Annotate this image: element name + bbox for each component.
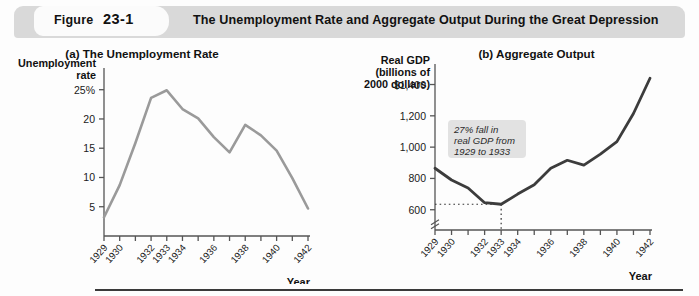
y-tick-label: 1,200 <box>400 110 426 122</box>
figure-label: Figure <box>54 13 93 27</box>
x-tick-label: 1940 <box>260 242 282 265</box>
annotation-line2: real GDP from <box>454 135 515 146</box>
x-axis-title: Year <box>629 270 653 282</box>
figure-root: Figure 23-1 The Unemployment Rate and Ag… <box>0 0 699 296</box>
y-axis-title-line1: Unemployment <box>18 57 96 69</box>
x-tick-label: 1938 <box>567 236 589 259</box>
x-tick-label: 1936 <box>534 236 556 259</box>
x-axis-title: Year <box>287 276 311 284</box>
unemployment-rate-chart: Unemploymentrate25%201510519291930193219… <box>0 44 350 284</box>
x-tick-label: 1934 <box>501 235 524 259</box>
y-axis-title-line1: Real GDP <box>381 54 430 66</box>
y-tick-label: 5 <box>89 201 95 213</box>
x-tick-label: 1942 <box>291 242 313 265</box>
y-tick-label: 10 <box>83 171 95 183</box>
y-tick-label: 25% <box>74 84 95 96</box>
unemployment-rate-line <box>104 90 308 217</box>
figure-title: The Unemployment Rate and Aggregate Outp… <box>193 13 659 27</box>
y-tick-label: 15 <box>83 142 95 154</box>
x-tick-label: 1930 <box>435 236 457 259</box>
bottom-rule <box>95 289 683 291</box>
y-tick-label: 1,000 <box>400 141 426 153</box>
y-axis-title-line2: (billions of <box>375 66 430 78</box>
y-tick-label: 20 <box>83 113 95 125</box>
x-tick-label: 1936 <box>197 242 219 265</box>
annotation-line3: 1929 to 1933 <box>454 146 511 157</box>
y-tick-label: 800 <box>408 172 426 184</box>
x-tick-label: 1942 <box>633 236 655 259</box>
annotation-line1: 27% fall in <box>453 124 498 135</box>
x-tick-label: 1940 <box>600 236 622 259</box>
x-tick-label: 1930 <box>103 242 125 265</box>
panel-aggregate-output: (b) Aggregate Output Real GDP(billions o… <box>350 44 699 284</box>
figure-number: 23-1 <box>103 11 134 27</box>
y-tick-label: 600 <box>408 204 426 216</box>
y-axis-title-line2: rate <box>76 69 96 81</box>
x-tick-label: 1934 <box>165 241 188 265</box>
y-tick-label: $1,400 <box>394 79 426 91</box>
panel-unemployment-rate: (a) The Unemployment Rate Unemploymentra… <box>0 44 350 284</box>
aggregate-output-chart: Real GDP(billions of2000 dollars)$1,4001… <box>350 44 699 284</box>
x-tick-label: 1938 <box>228 242 250 265</box>
